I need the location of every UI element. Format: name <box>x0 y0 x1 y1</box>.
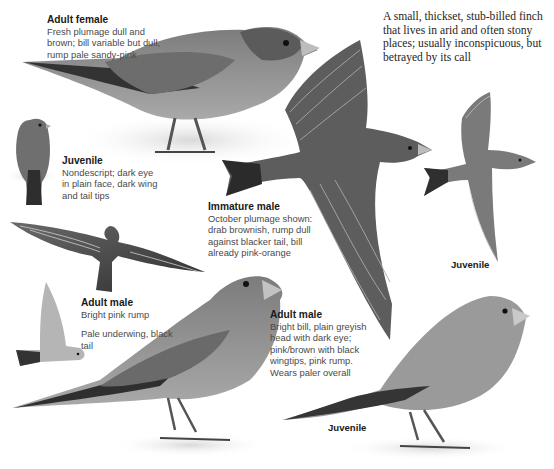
caption-body-2: Pale underwing, black tail <box>81 328 173 351</box>
caption-title: Adult female <box>47 14 175 26</box>
adult-male-flight-illustration <box>10 222 205 292</box>
caption-immature-male: Immature male October plumage shown: dra… <box>208 201 316 259</box>
caption-body: Fresh plumage dull and brown; bill varia… <box>47 26 160 60</box>
juvenile-small-illustration <box>4 119 60 205</box>
adult-male-underwing-illustration <box>16 282 85 366</box>
caption-title: Adult male <box>81 297 173 309</box>
caption-adult-male-perched: Adult male Bright bill, plain greyish he… <box>270 309 368 379</box>
caption-body: October plumage shown: drab brownish, ru… <box>208 213 312 259</box>
field-guide-plate: A small, thickset, stub-billed finch tha… <box>0 0 554 469</box>
caption-title: Adult male <box>270 309 368 321</box>
caption-adult-female: Adult female Fresh plumage dull and brow… <box>47 14 175 60</box>
caption-body: Nondescript; dark eye in plain face, dar… <box>62 167 157 201</box>
caption-juvenile-small: Juvenile Nondescript; dark eye in plain … <box>62 155 162 201</box>
caption-body: Bright bill, plain greyish head with dar… <box>270 321 366 378</box>
juvenile-flight-illustration <box>424 92 536 262</box>
caption-adult-male-flight: Adult male Bright pink rump Pale underwi… <box>81 297 173 351</box>
label-juvenile-flight: Juvenile <box>451 259 489 270</box>
label-juvenile-perched: Juvenile <box>328 422 366 433</box>
caption-body: Bright pink rump <box>81 309 149 320</box>
species-intro-text: A small, thickset, stub-billed finch tha… <box>383 10 553 64</box>
caption-title: Immature male <box>208 201 316 213</box>
caption-title: Juvenile <box>62 155 162 167</box>
